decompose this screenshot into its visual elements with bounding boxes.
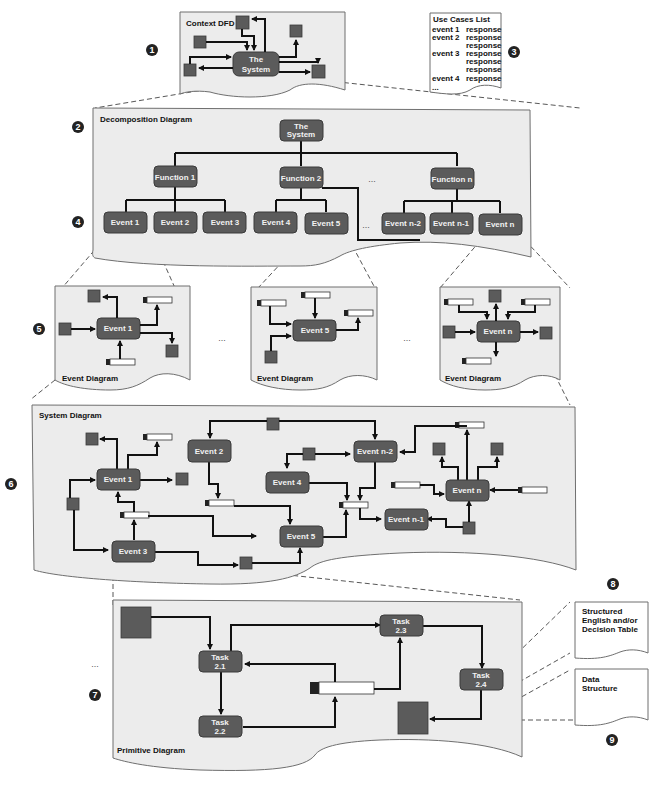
external-entity [489,290,501,302]
svg-text:Function n: Function n [432,175,473,184]
svg-text:Task: Task [472,671,490,680]
svg-text:8: 8 [610,579,615,589]
use-cases-list-document: Use Cases List event 1 response event 2 … [430,13,502,94]
svg-text:Event 3: Event 3 [211,218,240,227]
context-dfd-panel: Context DFD The System [180,12,345,97]
decomposition-title: Decomposition Diagram [100,115,192,124]
svg-text:3: 3 [511,47,516,57]
event-diagram-5-panel: Event 5 Event Diagram [251,287,377,390]
svg-text:2.2: 2.2 [214,727,226,736]
svg-text:6: 6 [8,479,13,489]
svg-text:...: ... [368,174,376,184]
data-store [319,682,374,694]
svg-text:event 2: event 2 [432,33,460,42]
data-store [261,300,286,306]
marker-4: 4 [72,216,84,228]
marker-9: 9 [606,734,618,746]
data-store [466,358,491,364]
svg-text:Event Diagram: Event Diagram [445,374,501,383]
external-entity [265,351,277,363]
svg-text:...: ... [218,333,226,343]
svg-text:...: ... [91,659,99,669]
external-entity [267,418,279,430]
svg-text:Task: Task [211,718,229,727]
svg-text:Event Diagram: Event Diagram [62,374,118,383]
svg-text:2.4: 2.4 [475,680,487,689]
external-entity [88,290,100,302]
external-entity [290,25,302,37]
use-cases-title: Use Cases List [433,15,490,24]
primitive-diagram-panel: Primitive Diagram Task 2.1 Task 2.2 Task… [113,600,522,770]
svg-text:Event n: Event n [486,220,515,229]
svg-text:5: 5 [36,324,41,334]
data-store [348,310,373,316]
svg-text:Event 1: Event 1 [111,218,140,227]
svg-text:Function 2: Function 2 [281,174,322,183]
svg-text:9: 9 [609,735,614,745]
svg-text:Event 5: Event 5 [287,532,316,541]
event-diagram-1-panel: Event 1 Event Diagram [55,286,190,390]
svg-text:1: 1 [149,45,154,55]
external-entity [540,327,552,339]
svg-text:Event 1: Event 1 [104,324,133,333]
external-entity [398,702,428,734]
marker-8: 8 [607,578,619,590]
data-store [147,434,172,440]
svg-text:Task: Task [392,617,410,626]
dfd-overview-diagram: Context DFD The System Use Cases List ev… [0,0,659,786]
svg-text:Structure: Structure [582,684,618,693]
data-store [525,299,550,305]
svg-text:Primitive Diagram: Primitive Diagram [117,746,185,755]
marker-1: 1 [146,44,158,56]
svg-text:Event n: Event n [484,327,513,336]
data-store [147,297,172,303]
data-structure-document: Data Structure [575,669,648,726]
svg-text:Event 2: Event 2 [195,447,224,456]
marker-2: 2 [72,121,84,133]
external-entity [433,443,445,455]
svg-text:English and/or: English and/or [582,616,638,625]
svg-text:response: response [466,74,502,83]
svg-text:System: System [242,65,270,74]
marker-5: 5 [33,323,45,335]
external-entity [194,36,206,48]
system-diagram-panel: System Diagram [32,405,576,584]
svg-text:...: ... [432,83,439,92]
external-entity [86,433,98,445]
event-diagram-n-panel: Event n Event Diagram [440,287,560,390]
data-store [343,502,368,508]
data-store [522,487,547,493]
structured-english-document: Structured English and/or Decision Table [575,602,648,659]
data-store [395,482,420,488]
svg-text:response: response [466,65,502,74]
external-entity [184,64,196,76]
svg-text:System Diagram: System Diagram [39,411,102,420]
svg-text:Event 5: Event 5 [312,219,341,228]
svg-text:Event Diagram: Event Diagram [257,374,313,383]
svg-text:Event n: Event n [453,486,482,495]
external-entity [176,473,188,485]
svg-text:Event n-1: Event n-1 [433,219,470,228]
external-entity [463,522,475,534]
svg-text:Event 5: Event 5 [301,326,330,335]
marker-6: 6 [5,478,17,490]
svg-text:7: 7 [92,690,97,700]
external-entity [59,323,71,335]
context-dfd-title: Context DFD [186,19,235,28]
svg-text:...: ... [362,220,370,230]
external-entity [67,498,79,510]
svg-text:Event 4: Event 4 [262,218,291,227]
svg-text:Decision Table: Decision Table [582,625,638,634]
svg-text:Event n-2: Event n-2 [357,447,394,456]
data-store [209,500,234,506]
marker-3: 3 [508,46,520,58]
svg-text:Event 4: Event 4 [273,478,302,487]
svg-text:...: ... [403,333,411,343]
svg-text:Task: Task [211,653,229,662]
svg-text:2.3: 2.3 [395,626,407,635]
svg-text:event 3: event 3 [432,49,460,58]
svg-text:Function 1: Function 1 [155,173,196,182]
external-entity [240,557,252,569]
data-store [305,292,330,298]
marker-7: 7 [89,689,101,701]
